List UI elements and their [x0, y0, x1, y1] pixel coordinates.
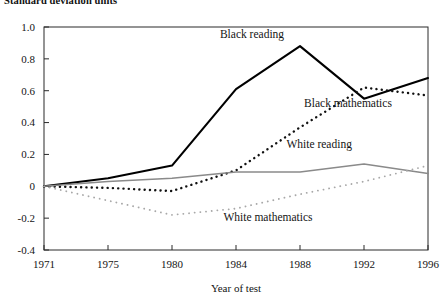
- y-tick-label: 0.2: [21, 148, 35, 160]
- x-tick-label: 1988: [289, 258, 312, 270]
- data-series-group: [44, 46, 428, 215]
- series-line-white-mathematics: [44, 166, 428, 215]
- series-label-white-reading: White reading: [286, 138, 352, 151]
- y-axis-supra-label: Standard deviation units: [4, 0, 117, 6]
- y-tick-label: 1.0: [21, 21, 35, 33]
- x-tick-label: 1971: [33, 258, 55, 270]
- chart-figure: Standard deviation units 1.00.80.60.40.2…: [0, 0, 447, 300]
- x-axis-title: Year of test: [211, 282, 261, 294]
- y-axis-tick-labels: 1.00.80.60.40.20-0.2-0.4: [18, 21, 36, 256]
- y-tick-label: -0.4: [18, 244, 36, 256]
- x-axis-ticks: [44, 245, 428, 250]
- y-tick-label: 0.8: [21, 53, 35, 65]
- x-axis-tick-labels: 1971197519801984198819921996: [33, 258, 440, 270]
- y-tick-label: 0: [30, 180, 36, 192]
- y-axis-ticks: [44, 27, 49, 250]
- x-tick-label: 1975: [97, 258, 120, 270]
- y-tick-label: -0.2: [18, 212, 35, 224]
- x-tick-label: 1980: [161, 258, 184, 270]
- series-annotation-labels: Black readingBlack mathematicsWhite read…: [220, 28, 393, 223]
- y-tick-label: 0.6: [21, 85, 35, 97]
- x-tick-label: 1992: [353, 258, 375, 270]
- x-axis-title-text: Year of test: [211, 282, 261, 294]
- series-label-white-mathematics: White mathematics: [223, 211, 313, 223]
- x-tick-label: 1984: [225, 258, 248, 270]
- series-label-black-reading: Black reading: [220, 28, 284, 41]
- line-chart: 1.00.80.60.40.20-0.2-0.4 197119751980198…: [0, 0, 447, 300]
- series-label-black-mathematics: Black mathematics: [304, 97, 392, 109]
- y-tick-label: 0.4: [21, 116, 35, 128]
- series-line-white-reading: [44, 164, 428, 186]
- x-tick-label: 1996: [417, 258, 440, 270]
